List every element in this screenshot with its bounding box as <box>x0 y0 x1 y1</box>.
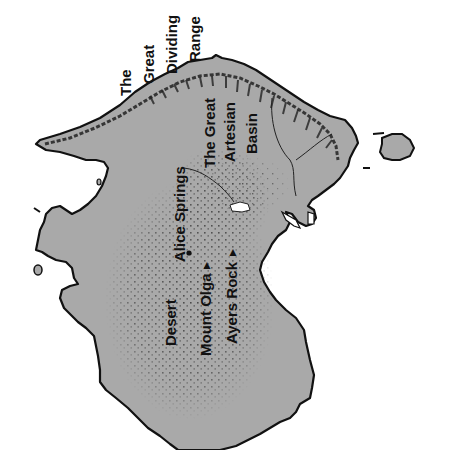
label-range-range: Range <box>187 16 202 62</box>
island-east <box>380 134 414 160</box>
island-small-2 <box>34 208 40 212</box>
label-ayers-rock: Ayers Rock▲ <box>224 246 239 344</box>
label-basin-the-great: The Great <box>202 98 217 168</box>
basin-stipple <box>180 140 300 230</box>
gulf-2 <box>308 212 314 224</box>
island-sliver <box>373 133 384 134</box>
ayers-rock-peak-icon: ▲ <box>227 246 239 258</box>
mount-olga-name: Mount Olga <box>197 274 214 357</box>
island-small-1 <box>34 265 42 275</box>
label-mount-olga: Mount Olga▲ <box>198 260 213 356</box>
label-basin-artesian: Artesian <box>222 102 237 162</box>
label-range-great: Great <box>141 45 156 84</box>
label-desert: Desert <box>163 299 178 346</box>
label-alice-springs: Alice Springs <box>172 166 187 262</box>
australia-map <box>0 0 466 450</box>
label-basin-basin: Basin <box>244 113 259 154</box>
label-range-dividing: Dividing <box>164 15 179 74</box>
mount-olga-peak-icon: ▲ <box>201 260 213 272</box>
ayers-rock-name: Ayers Rock <box>223 262 240 344</box>
label-range-the: The <box>118 69 133 96</box>
